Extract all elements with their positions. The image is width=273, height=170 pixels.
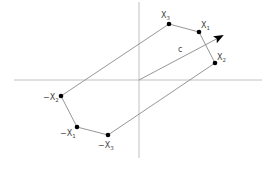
vertex-label-neg-x1: −X1	[60, 129, 76, 139]
vertex-dot-neg-x2	[59, 94, 64, 99]
diagram-svg: c X3X1X2−X3−X1−X2	[0, 0, 273, 170]
vector-c-arrow	[139, 36, 222, 80]
vertex-label-x1: X1	[201, 21, 210, 31]
vertex-dot-neg-x3	[106, 133, 111, 138]
vertex-dot-neg-x1	[75, 125, 80, 130]
vertex-label-neg-x2: −X2	[43, 93, 59, 103]
vertex-dot-x1	[197, 30, 202, 35]
vertex-group: X3X1X2−X3−X1−X2	[43, 11, 226, 151]
zonotope-diagram: c X3X1X2−X3−X1−X2	[0, 0, 273, 170]
vertex-label-x2: X2	[217, 53, 226, 63]
vertex-label-x3: X3	[161, 11, 170, 21]
vector-c-label: c	[178, 45, 182, 54]
vertex-dot-x3	[167, 22, 172, 27]
hexagon-outline	[61, 24, 215, 135]
vertex-label-neg-x3: −X3	[98, 141, 114, 151]
